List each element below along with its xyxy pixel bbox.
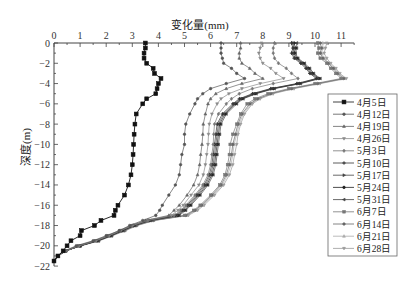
legend-label: 5月31日 [357,195,391,205]
data-point-marker [198,163,201,166]
data-point-marker [132,143,136,147]
data-point-marker [209,87,212,90]
data-point-marker [220,52,223,55]
series-11 [53,42,345,263]
data-point-marker [207,133,210,136]
data-point-marker [320,47,323,50]
y-tick-label: −12 [34,159,50,170]
legend-marker-icon [343,211,346,214]
series-7 [53,42,319,263]
data-point-marker [130,163,134,167]
data-point-marker [274,72,277,75]
series-line [54,43,298,261]
data-point-marker [123,193,127,197]
data-point-marker [248,67,251,70]
data-point-marker [222,62,225,65]
data-point-marker [227,93,230,96]
legend-label: 5月3日 [357,146,387,156]
data-point-marker [141,102,145,106]
data-point-marker [159,77,163,81]
data-point-marker [342,77,345,80]
series-line [54,43,320,261]
plot-area [52,41,348,263]
data-point-marker [261,77,264,80]
data-point-marker [225,87,228,90]
data-point-marker [118,229,121,232]
y-tick-label: −10 [34,139,50,150]
data-point-marker [288,87,291,90]
data-point-marker [316,52,319,55]
data-point-marker [321,41,324,44]
data-point-marker [105,234,108,237]
legend-label: 6月21日 [357,232,391,242]
data-point-marker [75,245,78,248]
legend-label: 4月12日 [357,110,391,120]
data-point-marker [282,77,285,80]
legend-label: 4月5日 [357,98,387,108]
data-point-marker [238,57,241,60]
y-tick-label: −4 [39,78,50,89]
data-point-marker [61,249,65,253]
data-point-marker [319,52,322,55]
x-tick-label: 7 [234,30,239,41]
series-line [54,43,318,261]
data-point-marker [129,173,133,177]
data-point-marker [183,143,186,146]
data-point-marker [155,87,159,91]
data-point-marker [154,92,158,96]
data-point-marker [78,234,82,238]
data-point-marker [183,214,186,217]
series-3 [53,41,265,262]
data-point-marker [230,67,233,70]
data-point-marker [325,62,328,65]
data-point-marker [316,42,319,45]
legend-label: 6月7日 [357,207,387,217]
data-point-marker [240,82,243,85]
data-point-marker [231,133,234,136]
data-point-marker [181,153,184,156]
y-tick-label: −22 [34,261,50,272]
data-point-marker [234,133,237,136]
data-point-marker [205,154,208,157]
legend-label: 6月14日 [357,220,391,230]
data-point-marker [154,214,157,217]
series-4 [53,42,286,263]
x-tick-label: 10 [310,30,320,41]
series-1 [52,41,163,263]
series-line [54,43,161,261]
series-line [54,43,344,261]
data-point-marker [238,52,241,55]
legend-marker-icon [342,100,346,104]
data-point-marker [142,56,146,60]
legend-label: 4月19日 [357,122,391,132]
data-point-marker [92,239,95,242]
data-point-marker [218,184,221,187]
data-point-marker [267,92,270,95]
data-point-marker [69,239,73,243]
data-point-marker [192,209,195,212]
data-point-marker [212,133,215,136]
data-point-marker [204,164,207,167]
y-tick-label: −16 [34,200,50,211]
data-point-marker [225,82,228,85]
legend-marker-icon [343,223,346,226]
data-point-marker [145,61,149,65]
data-point-marker [113,208,117,212]
data-point-marker [133,122,137,126]
data-point-marker [143,41,147,45]
data-point-marker [188,113,191,116]
data-point-marker [208,123,211,126]
data-point-marker [196,97,199,100]
legend-label: 5月17日 [357,171,391,181]
data-point-marker [239,41,242,44]
data-point-marker [128,224,131,227]
data-point-marker [168,194,171,197]
data-point-marker [56,254,60,258]
data-point-marker [178,174,181,177]
data-point-marker [319,42,322,45]
data-point-marker [209,194,212,197]
data-point-marker [201,143,204,146]
data-point-marker [220,42,223,45]
series-line [54,43,345,261]
data-point-marker [116,203,120,207]
